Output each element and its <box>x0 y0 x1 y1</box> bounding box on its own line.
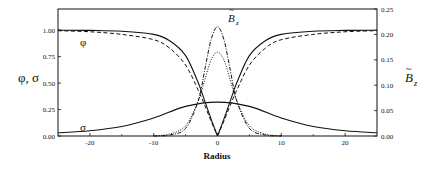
curve-dashed <box>218 31 378 136</box>
x-axis-title: Radius <box>203 151 231 161</box>
x-tick-label: -10 <box>149 139 159 147</box>
left-y-axis-title: φ, σ <box>18 70 39 85</box>
svg-text:z: z <box>413 79 418 88</box>
y-right-tick-label: 0.20 <box>381 31 394 39</box>
chart: -20-1001020 0.000.250.500.751.00 0.000.0… <box>0 0 429 171</box>
y-tick-label: 0.25 <box>43 106 56 114</box>
y-right-tick-label: 0.25 <box>381 6 394 14</box>
curve-solid <box>218 30 378 136</box>
x-tick-label: 20 <box>342 139 350 147</box>
x-tick-label: 10 <box>278 139 286 147</box>
y-right-tick-label: 0.10 <box>381 82 394 90</box>
plot-frame <box>58 9 377 136</box>
x-axis-ticks: -20-1001020 <box>85 133 349 147</box>
sigma-curve-label: σ <box>80 121 86 133</box>
bz-curve-label: B ~ z <box>228 5 239 27</box>
y-right-tick-label: 0.05 <box>381 107 394 115</box>
svg-text:~: ~ <box>229 5 234 15</box>
y-tick-label: 0.75 <box>43 53 56 61</box>
right-y-axis-title: B ~ z <box>405 63 418 88</box>
y-right-tick-label: 0.00 <box>381 133 394 141</box>
y-tick-label: 0.50 <box>43 80 56 88</box>
svg-text:~: ~ <box>406 63 412 74</box>
curve-solid <box>58 102 377 133</box>
curve-dotted <box>154 52 282 136</box>
y-tick-label: 0.00 <box>43 133 56 141</box>
y-right-tick-label: 0.15 <box>381 56 394 64</box>
svg-text:z: z <box>235 19 239 27</box>
x-tick-label: -20 <box>85 139 95 147</box>
x-tick-label: 0 <box>216 139 220 147</box>
plot-curves <box>58 27 377 136</box>
y-tick-label: 1.00 <box>43 27 56 35</box>
phi-curve-label: φ <box>80 36 86 48</box>
